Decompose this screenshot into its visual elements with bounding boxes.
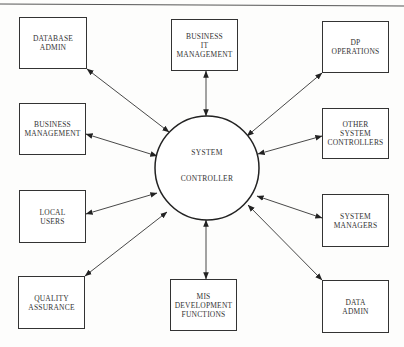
connector-database-admin <box>87 69 169 132</box>
node-business-it-management: BUSINESS IT MANAGEMENT <box>171 19 238 71</box>
diagram-canvas: SYSTEM CONTROLLER DATABASE ADMINBUSINESS… <box>0 0 404 347</box>
connector-dp-operations <box>247 73 322 136</box>
center-label-line1: SYSTEM <box>157 148 257 157</box>
node-label: BUSINESS IT MANAGEMENT <box>176 32 232 59</box>
node-label: DP OPERATIONS <box>332 38 380 56</box>
center-label-line2: CONTROLLER <box>157 174 257 183</box>
node-other-system-controllers: OTHER SYSTEM CONTROLLERS <box>322 108 389 159</box>
node-label: SYSTEM MANAGERS <box>334 212 378 230</box>
connector-local-users <box>86 193 157 214</box>
node-data-admin: DATA ADMIN <box>322 280 389 333</box>
connector-data-admin <box>248 205 322 280</box>
node-mis-development-functions: MIS DEVELOPMENT FUNCTIONS <box>170 279 237 331</box>
system-controller-circle <box>155 116 259 220</box>
node-business-management: BUSINESS MANAGEMENT <box>19 103 86 155</box>
connector-quality-assurance <box>85 212 167 276</box>
connector-system-managers <box>257 196 322 218</box>
node-database-admin: DATABASE ADMIN <box>19 17 87 69</box>
node-dp-operations: DP OPERATIONS <box>322 21 389 73</box>
node-label: BUSINESS MANAGEMENT <box>24 120 80 138</box>
node-label: OTHER SYSTEM CONTROLLERS <box>328 120 384 147</box>
node-local-users: LOCAL USERS <box>19 190 86 243</box>
node-label: LOCAL USERS <box>40 208 66 226</box>
top-rule <box>0 4 404 6</box>
node-system-managers: SYSTEM MANAGERS <box>322 194 389 247</box>
node-quality-assurance: QUALITY ASSURANCE <box>18 276 85 329</box>
node-label: MIS DEVELOPMENT FUNCTIONS <box>175 292 233 319</box>
connector-other-system-controllers <box>258 136 322 154</box>
connector-business-management <box>86 134 157 156</box>
node-label: DATABASE ADMIN <box>33 34 73 52</box>
node-label: DATA ADMIN <box>342 298 368 316</box>
node-label: QUALITY ASSURANCE <box>28 294 74 312</box>
